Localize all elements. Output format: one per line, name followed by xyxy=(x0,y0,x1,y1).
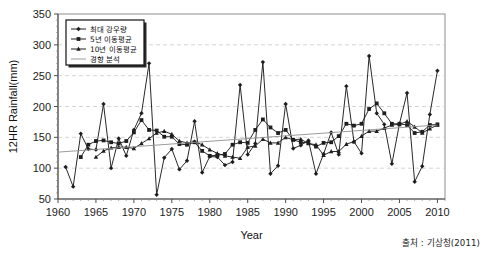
data-point xyxy=(147,128,151,132)
x-tick-label-1965: 1965 xyxy=(84,206,108,218)
data-point xyxy=(231,143,235,147)
x-tick-label-1995: 1995 xyxy=(311,206,335,218)
data-point xyxy=(269,126,273,130)
x-tick-label-1975: 1975 xyxy=(160,206,184,218)
legend-marker-1 xyxy=(77,37,81,41)
data-point xyxy=(140,118,144,122)
source-note: 출처 : 기상청(2011) xyxy=(402,236,480,248)
data-point xyxy=(124,139,128,143)
rainfall-figure: 5010015020025030035019601965197019751980… xyxy=(0,0,488,258)
data-point xyxy=(382,111,386,115)
y-axis-title: 12HR Rainfall(mm) xyxy=(7,60,19,154)
x-tick-label-2000: 2000 xyxy=(349,206,373,218)
data-point xyxy=(208,154,212,158)
data-point xyxy=(375,102,379,106)
data-point xyxy=(109,140,113,144)
y-tick-label-150: 150 xyxy=(33,131,51,143)
data-point xyxy=(200,149,204,153)
y-tick-label-250: 250 xyxy=(33,70,51,82)
x-tick-label-1980: 1980 xyxy=(198,206,222,218)
data-point xyxy=(413,131,417,135)
data-point xyxy=(322,141,326,145)
y-tick-label-350: 350 xyxy=(33,8,51,20)
x-axis-title: Year xyxy=(240,229,263,241)
x-tick-label-1970: 1970 xyxy=(122,206,146,218)
y-tick-label-100: 100 xyxy=(33,162,51,174)
rainfall-line-chart: 5010015020025030035019601965197019751980… xyxy=(0,0,488,258)
legend-label-2: 10년 이동평균 xyxy=(90,45,137,54)
data-point xyxy=(102,139,106,143)
data-point xyxy=(284,128,288,132)
data-point xyxy=(405,123,409,127)
data-point xyxy=(162,135,166,139)
data-point xyxy=(276,131,280,135)
data-point xyxy=(77,37,81,41)
y-tick-label-300: 300 xyxy=(33,39,51,51)
data-point xyxy=(253,128,257,132)
x-tick-label-2010: 2010 xyxy=(425,206,449,218)
data-point xyxy=(94,139,98,143)
legend-label-1: 5년 이동평균 xyxy=(90,35,132,44)
y-tick-label-200: 200 xyxy=(33,101,51,113)
data-point xyxy=(238,140,242,144)
legend-label-0: 최대 강우량 xyxy=(90,25,127,34)
data-point xyxy=(261,118,265,122)
data-point xyxy=(352,124,356,128)
data-point xyxy=(337,134,341,138)
x-tick-label-1985: 1985 xyxy=(235,206,259,218)
data-point xyxy=(132,131,136,135)
data-point xyxy=(246,141,250,145)
x-tick-label-1990: 1990 xyxy=(273,206,297,218)
legend-label-3: 경향 분석 xyxy=(90,55,120,64)
x-tick-label-1960: 1960 xyxy=(46,206,70,218)
data-point xyxy=(329,140,333,144)
data-point xyxy=(86,143,90,147)
data-point xyxy=(79,155,83,159)
data-point xyxy=(344,122,348,126)
data-point xyxy=(367,107,371,111)
x-tick-label-2005: 2005 xyxy=(387,206,411,218)
data-point xyxy=(360,122,364,126)
y-tick-label-50: 50 xyxy=(39,193,51,205)
